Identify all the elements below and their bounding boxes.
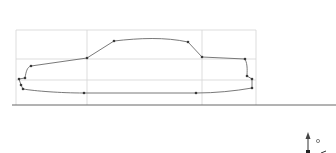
control-point[interactable] (20, 84, 23, 87)
sketch-viewport[interactable] (0, 0, 336, 153)
control-point[interactable] (113, 40, 116, 43)
control-point[interactable] (251, 78, 254, 81)
control-point[interactable] (86, 57, 89, 60)
control-point[interactable] (187, 41, 190, 44)
control-point[interactable] (246, 75, 249, 78)
control-point[interactable] (195, 92, 198, 95)
control-points (18, 40, 254, 95)
control-point[interactable] (30, 65, 33, 68)
coordinate-triad (306, 132, 327, 153)
car-profile-curve[interactable] (19, 39, 252, 94)
origin-dot-icon (316, 139, 319, 142)
control-point[interactable] (244, 58, 247, 61)
arrow-up-head (306, 132, 311, 139)
control-point[interactable] (24, 77, 27, 80)
control-point[interactable] (201, 56, 204, 59)
control-point[interactable] (251, 87, 254, 90)
control-point[interactable] (18, 78, 21, 81)
triad-origin (306, 150, 310, 153)
control-point[interactable] (83, 92, 86, 95)
control-point[interactable] (22, 88, 25, 91)
construction-grid (16, 30, 256, 105)
arrow-right-stub (321, 151, 326, 153)
